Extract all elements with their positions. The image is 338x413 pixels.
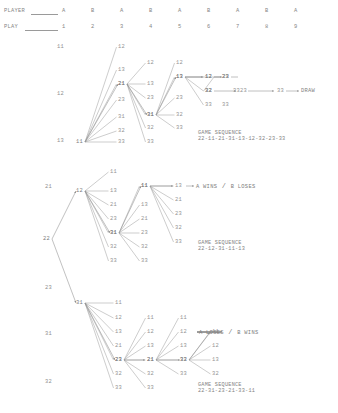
header-play-cell-2: 2 xyxy=(91,24,95,30)
root-node-22[interactable]: 22 xyxy=(43,236,50,242)
leaf-fan-23c-13-2[interactable]: 13 xyxy=(147,343,154,349)
leaf-fan-23c-12-1[interactable]: 12 xyxy=(147,329,154,335)
diagram-sheet: PLAYER PLAY ABABABABA 123456789 11121321… xyxy=(0,0,338,413)
leaf-fan-31-32-3[interactable]: 32 xyxy=(176,112,183,118)
leaf-fan-31c-21-3[interactable]: 21 xyxy=(115,343,122,349)
leaf-fan-11b-32-3[interactable]: 32 xyxy=(175,225,182,231)
leaf-fan-21c-11-0[interactable]: 11 xyxy=(180,315,187,321)
leaf-fan-23c-33-5[interactable]: 33 xyxy=(147,385,154,391)
leaf-fan-31c-33-6[interactable]: 33 xyxy=(115,385,122,391)
leaf-fan-31c-13-2[interactable]: 13 xyxy=(115,329,122,335)
leaf-fan-11-13-1[interactable]: 13 xyxy=(118,67,125,73)
outcome-a-wins: A WINS / B LOSES xyxy=(196,183,255,190)
leaf-fan-21-23-2[interactable]: 23 xyxy=(147,95,154,101)
node-fan-23c[interactable]: 23 xyxy=(115,357,122,363)
leaf-fan-12b-23-3[interactable]: 23 xyxy=(110,216,117,222)
game-sequence-draw: GAME SEQUENCE22-11-21-31-13-12-32-23-33 xyxy=(198,130,285,143)
header-player-cell-9: A xyxy=(294,8,298,14)
leaf-fan-31-33-4[interactable]: 33 xyxy=(176,125,183,131)
play-leader-line xyxy=(25,30,58,31)
header-play-cell-1: 1 xyxy=(62,24,66,30)
header-play-cell-4: 4 xyxy=(149,24,153,30)
leaf-fan-33c-12-1[interactable]: 12 xyxy=(212,343,219,349)
game-sequence-a-wins-moves: 22-12-31-11-13 xyxy=(198,246,245,252)
leaf-fan-31b-23-3[interactable]: 23 xyxy=(141,230,148,236)
chain-node-33-4[interactable]: 33 xyxy=(277,88,284,94)
leaf-fan-21-13-1[interactable]: 13 xyxy=(147,81,154,87)
axis-label-31-5: 31 xyxy=(45,331,52,337)
leaf-fan-12b-21-2[interactable]: 21 xyxy=(110,202,117,208)
leaf-fan-11b-21-1[interactable]: 21 xyxy=(175,197,182,203)
leaf-fan-12b-11-0[interactable]: 11 xyxy=(110,169,117,175)
outcome-a-wins-right: B LOSES xyxy=(231,184,256,190)
leaf-fan-31b-21-2[interactable]: 21 xyxy=(141,216,148,222)
outcome-a-loses-right: B WINS xyxy=(237,330,258,336)
header-player-cell-7: A xyxy=(236,8,240,14)
header-play-cell-5: 5 xyxy=(178,24,182,30)
leaf-fan-11-32-5[interactable]: 32 xyxy=(118,128,125,134)
chain-node-23-2[interactable]: 23 xyxy=(240,88,247,94)
node-fan-12-mid[interactable]: 12 xyxy=(205,74,212,80)
leaf-fan-11b-33-4[interactable]: 33 xyxy=(175,239,182,245)
node-fan-31c[interactable]: 31 xyxy=(76,300,83,306)
node-fan-21[interactable]: 21 xyxy=(118,81,125,87)
header-player-cell-1: A xyxy=(62,8,66,14)
player-leader-line xyxy=(31,14,58,15)
header-play-cell-7: 7 xyxy=(236,24,240,30)
header-play-cell-9: 9 xyxy=(294,24,298,30)
leaf-fan-21c-13-2[interactable]: 13 xyxy=(180,343,187,349)
outcome-a-wins-separator: / xyxy=(217,182,231,190)
leaf-fan-21-33-5[interactable]: 33 xyxy=(147,139,154,145)
leaf-fan-31c-12-1[interactable]: 12 xyxy=(115,315,122,321)
node-fan-13a[interactable]: 13 xyxy=(176,74,183,80)
leaf-fan-31c-32-5[interactable]: 32 xyxy=(115,371,122,377)
leaf-fan-31c-11-0[interactable]: 11 xyxy=(115,300,122,306)
chain-node-32-1[interactable]: 32 xyxy=(205,88,212,94)
leaf-fan-23c-32-4[interactable]: 32 xyxy=(147,371,154,377)
game-sequence-a-loses-moves: 22-31-23-21-33-11 xyxy=(198,388,255,394)
leaf-fan-13a-33-3[interactable]: 33 xyxy=(205,102,212,108)
header-play-cell-3: 3 xyxy=(120,24,124,30)
leaf-fan-21c-33-4[interactable]: 33 xyxy=(180,371,187,377)
leaf-fan-11b-23-2[interactable]: 23 xyxy=(175,211,182,217)
header-player-cell-6: B xyxy=(207,8,211,14)
leaf-fan-21c-12-1[interactable]: 12 xyxy=(180,329,187,335)
leaf-fan-31-23-2[interactable]: 23 xyxy=(176,95,183,101)
game-sequence-a-wins: GAME SEQUENCE22-12-31-11-13 xyxy=(198,240,245,253)
outcome-a-loses-separator: / xyxy=(224,328,238,336)
leaf-fan-31b-32-4[interactable]: 32 xyxy=(141,244,148,250)
node-fan-33c[interactable]: 33 xyxy=(180,357,187,363)
leaf-fan-11-33-6[interactable]: 33 xyxy=(118,139,125,145)
leaf-fan-12b-33-6[interactable]: 33 xyxy=(110,258,117,264)
leaf-fan-21-32-4[interactable]: 32 xyxy=(147,125,154,131)
node-fan-12b[interactable]: 12 xyxy=(76,188,83,194)
leaf-fan-21-12-0[interactable]: 12 xyxy=(147,60,154,66)
leaf-fan-33c-32-3[interactable]: 32 xyxy=(212,371,219,377)
leaf-fan-11b-13-0[interactable]: 13 xyxy=(175,183,182,189)
chain-node-33-3[interactable]: 33 xyxy=(233,88,240,94)
leaf-fan-31-12-0[interactable]: 12 xyxy=(176,60,183,66)
node-fan-11[interactable]: 11 xyxy=(76,139,83,145)
leaf-fan-11-23-3[interactable]: 23 xyxy=(118,97,125,103)
outcome-a-loses-left: A LOSES xyxy=(199,330,224,336)
chain-node-33-5[interactable]: 33 xyxy=(222,102,229,108)
leaf-fan-11-12-0[interactable]: 12 xyxy=(118,44,125,50)
node-fan-21c[interactable]: 21 xyxy=(147,357,154,363)
leaf-fan-23c-11-0[interactable]: 11 xyxy=(147,315,154,321)
chain-node-23-0[interactable]: 23 xyxy=(222,74,229,80)
node-fan-31[interactable]: 31 xyxy=(147,112,154,118)
leaf-fan-12b-13-1[interactable]: 13 xyxy=(110,188,117,194)
leaf-fan-33c-13-2[interactable]: 13 xyxy=(212,357,219,363)
outcome-draw: DRAW xyxy=(301,88,315,94)
leaf-fan-12b-32-5[interactable]: 32 xyxy=(110,244,117,250)
leaf-fan-31b-33-5[interactable]: 33 xyxy=(141,258,148,264)
header-play-cell-8: 8 xyxy=(265,24,269,30)
axis-label-13-2: 13 xyxy=(57,138,64,144)
outcome-a-loses: A LOSES / B WINS xyxy=(199,329,258,336)
node-fan-11b[interactable]: 11 xyxy=(141,183,148,189)
axis-label-32-6: 32 xyxy=(45,379,52,385)
leaf-fan-31b-13-1[interactable]: 13 xyxy=(141,202,148,208)
leaf-fan-11-31-4[interactable]: 31 xyxy=(118,114,125,120)
header-player-cell-3: A xyxy=(120,8,124,14)
node-fan-31b[interactable]: 31 xyxy=(110,230,117,236)
